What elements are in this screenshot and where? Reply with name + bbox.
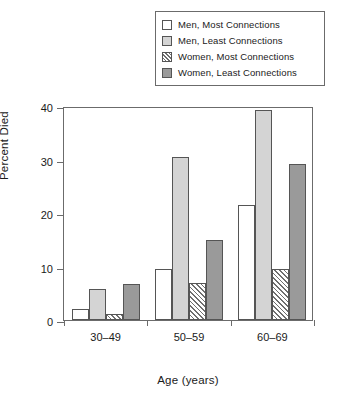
bar — [172, 157, 189, 320]
y-axis-tick-label: 40 — [41, 102, 53, 115]
x-axis-tick-label: 60–69 — [257, 331, 288, 344]
bar — [72, 309, 89, 320]
legend-swatch-dark-gray-icon — [162, 68, 172, 78]
x-axis-tick — [314, 320, 315, 326]
legend-item-label: Men, Least Connections — [178, 35, 283, 46]
bar — [289, 164, 306, 320]
y-axis-tick-label: 10 — [41, 263, 53, 276]
legend-item-men-least: Men, Least Connections — [162, 33, 318, 48]
bar — [272, 269, 289, 320]
y-axis-tick: 30 — [57, 162, 64, 163]
bar — [89, 289, 106, 320]
bar — [206, 240, 223, 320]
legend-item-women-most: Women, Most Connections — [162, 49, 318, 64]
legend-item-label: Men, Most Connections — [178, 19, 280, 30]
bar-group — [72, 108, 140, 320]
bar-group — [238, 108, 306, 320]
y-axis-tick: 20 — [57, 215, 64, 216]
x-axis-tick — [231, 320, 232, 326]
bar — [238, 205, 255, 320]
y-axis-tick: 0 — [57, 322, 64, 323]
y-axis-tick-label: 20 — [41, 209, 53, 222]
bar — [123, 284, 140, 320]
x-axis-tick-label: 30–49 — [90, 331, 121, 344]
x-axis-tick — [64, 320, 65, 326]
bar-series-container — [64, 108, 312, 320]
x-axis-tick-label: 50–59 — [174, 331, 205, 344]
x-axis-title: Age (years) — [63, 374, 313, 386]
legend-swatch-hatched-icon — [162, 52, 172, 62]
bar — [255, 110, 272, 320]
y-axis-tick-label: 30 — [41, 156, 53, 169]
legend-item-label: Women, Most Connections — [178, 51, 294, 62]
legend-item-label: Women, Least Connections — [178, 67, 297, 78]
y-axis-tick: 10 — [57, 269, 64, 270]
bar — [189, 283, 206, 320]
y-axis-title: Percent Died — [0, 111, 10, 180]
y-axis-tick-label: 0 — [47, 316, 53, 329]
legend-swatch-white-icon — [162, 20, 172, 30]
bar — [155, 269, 172, 320]
bar — [106, 314, 123, 320]
bar-group — [155, 108, 223, 320]
chart-legend: Men, Most Connections Men, Least Connect… — [155, 11, 325, 86]
legend-item-women-least: Women, Least Connections — [162, 65, 318, 80]
y-axis-tick: 40 — [57, 108, 64, 109]
plot-area: 010203040 30–4950–5960–69 — [63, 107, 313, 321]
legend-swatch-light-gray-icon — [162, 36, 172, 46]
legend-item-men-most: Men, Most Connections — [162, 17, 318, 32]
x-axis-tick — [147, 320, 148, 326]
